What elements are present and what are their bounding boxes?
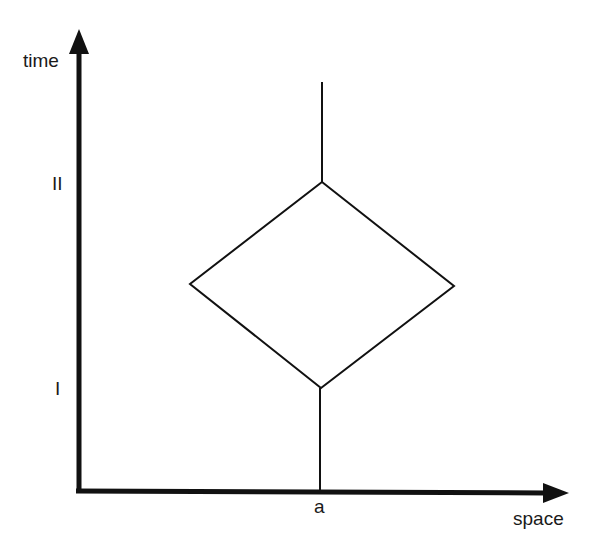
time-axis-label: time (23, 50, 59, 71)
spacetime-diagram: time space II I a (0, 0, 591, 548)
tick-label-II: II (52, 173, 63, 194)
space-axis (76, 491, 546, 493)
diamond (190, 182, 454, 388)
space-axis-arrowhead-icon (543, 483, 569, 503)
time-axis-arrowhead-icon (69, 29, 89, 54)
tick-label-I: I (55, 378, 60, 399)
space-axis-label: space (513, 508, 564, 529)
tick-label-a: a (314, 496, 325, 517)
